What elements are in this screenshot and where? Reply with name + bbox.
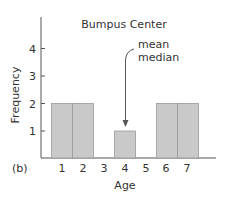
bar-age-7 bbox=[178, 104, 199, 159]
y-tick-label: 4 bbox=[29, 43, 36, 56]
y-tick-label: 2 bbox=[29, 98, 36, 111]
panel-label: (b) bbox=[12, 162, 28, 175]
x-tick-label: 1 bbox=[59, 162, 66, 175]
annotation-arrow bbox=[126, 49, 135, 121]
arrowhead-icon bbox=[123, 120, 129, 127]
bar-age-1 bbox=[52, 104, 73, 159]
y-ticks bbox=[41, 49, 45, 132]
x-tick-label: 5 bbox=[143, 162, 150, 175]
chart-canvas: 1 2 3 4 Frequency Bumpus Center 1 2 3 4 … bbox=[0, 0, 227, 203]
x-tick-label: 2 bbox=[80, 162, 87, 175]
x-tick-label: 4 bbox=[122, 162, 129, 175]
annotation-median: median bbox=[138, 51, 179, 64]
y-tick-label: 3 bbox=[29, 70, 36, 83]
bar-age-2 bbox=[73, 104, 94, 159]
x-tick-label: 7 bbox=[184, 162, 191, 175]
chart-title: Bumpus Center bbox=[81, 18, 167, 31]
bar-age-6 bbox=[157, 104, 178, 159]
y-tick-label: 1 bbox=[29, 125, 36, 138]
annotation-mean: mean bbox=[138, 38, 169, 51]
bar-age-4 bbox=[115, 131, 136, 158]
y-axis-label: Frequency bbox=[9, 66, 22, 123]
x-tick-label: 6 bbox=[163, 162, 170, 175]
x-tick-label: 3 bbox=[101, 162, 108, 175]
x-axis-label: Age bbox=[114, 179, 136, 192]
